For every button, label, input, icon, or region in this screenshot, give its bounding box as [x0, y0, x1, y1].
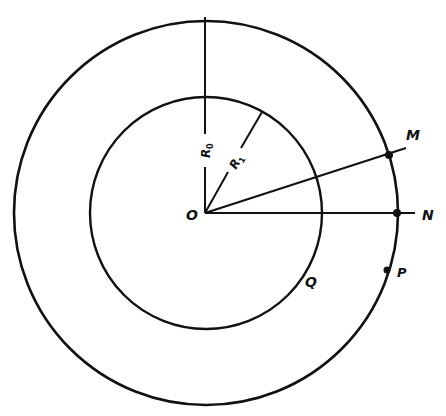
center-label-o: O	[186, 207, 198, 223]
point-q-label: Q	[305, 274, 317, 290]
radius-r0-label: R 0	[199, 143, 215, 158]
point-m-label: M	[406, 127, 420, 143]
point-n-label: N	[422, 207, 434, 223]
svg-text:0: 0	[206, 143, 215, 149]
point-p-dot	[384, 267, 391, 274]
radius-r1-label: R 1	[226, 152, 247, 173]
point-n-dot	[393, 209, 401, 217]
line-om	[205, 148, 406, 213]
point-m-dot	[385, 151, 393, 159]
concentric-circles-diagram: O R 0 R 1 M N P Q	[0, 0, 446, 416]
point-p-label: P	[397, 265, 407, 280]
radius-r1-upper	[241, 112, 262, 148]
svg-text:R: R	[199, 149, 213, 158]
